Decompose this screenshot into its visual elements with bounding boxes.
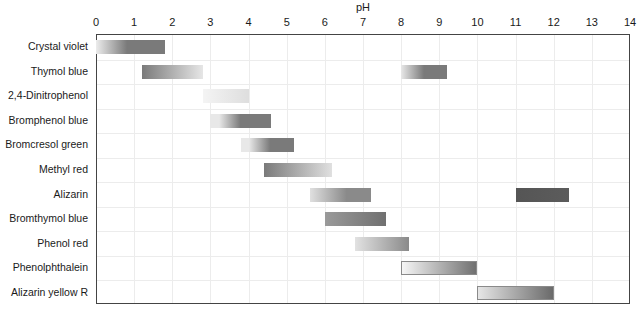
x-tick-label: 2 (169, 16, 175, 28)
indicator-label: Thymol blue (31, 65, 88, 77)
horizontal-gridline (97, 207, 629, 208)
ph-range-bar (264, 163, 333, 177)
ph-range-bar (241, 138, 294, 152)
x-tick-label: 12 (548, 16, 560, 28)
ph-range-bar (401, 261, 477, 275)
horizontal-gridline (97, 182, 629, 183)
horizontal-gridline (97, 256, 629, 257)
vertical-gridline (592, 35, 593, 303)
horizontal-gridline (97, 133, 629, 134)
ph-range-bar (210, 114, 271, 128)
indicator-label: Methyl red (39, 163, 88, 175)
horizontal-gridline (97, 158, 629, 159)
ph-range-bar (355, 237, 408, 251)
indicator-label: Phenol red (37, 237, 88, 249)
indicator-label: Bromcresol green (5, 138, 88, 150)
indicator-label: Alizarin yellow R (11, 286, 88, 298)
ph-range-bar (516, 188, 569, 202)
horizontal-gridline (97, 109, 629, 110)
x-tick-label: 5 (284, 16, 290, 28)
indicator-label: Bromphenol blue (9, 114, 88, 126)
indicator-label: Alizarin (54, 188, 88, 200)
vertical-gridline (210, 35, 211, 303)
x-tick-label: 9 (436, 16, 442, 28)
indicator-label: 2,4-Dinitrophenol (8, 89, 88, 101)
x-tick-label: 1 (131, 16, 137, 28)
ph-range-bar (203, 89, 249, 103)
ph-range-bar (310, 188, 371, 202)
x-tick-label: 0 (93, 16, 99, 28)
x-tick-label: 14 (624, 16, 636, 28)
vertical-gridline (249, 35, 250, 303)
ph-range-bar (325, 212, 386, 226)
x-tick-label: 10 (471, 16, 483, 28)
indicator-label: Crystal violet (28, 40, 88, 52)
ph-range-bar (401, 65, 447, 79)
vertical-gridline (554, 35, 555, 303)
x-tick-label: 11 (510, 16, 521, 28)
vertical-gridline (477, 35, 478, 303)
x-tick-label: 6 (322, 16, 328, 28)
horizontal-gridline (97, 280, 629, 281)
indicator-label: Phenolphthalein (13, 261, 88, 273)
x-tick-label: 4 (246, 16, 252, 28)
vertical-gridline (363, 35, 364, 303)
x-tick-label: 13 (586, 16, 598, 28)
ph-range-bar (96, 40, 165, 54)
vertical-gridline (516, 35, 517, 303)
horizontal-gridline (97, 84, 629, 85)
x-axis-title: pH (356, 1, 370, 13)
horizontal-gridline (97, 60, 629, 61)
x-tick-label: 8 (398, 16, 404, 28)
x-tick-label: 3 (207, 16, 213, 28)
plot-area (96, 34, 630, 304)
ph-range-bar (142, 65, 203, 79)
vertical-gridline (134, 35, 135, 303)
indicator-label: Bromthymol blue (9, 212, 88, 224)
ph-range-bar (477, 286, 553, 300)
x-tick-label: 7 (360, 16, 366, 28)
indicator-ph-range-chart: pH 01234567891011121314 Crystal violetTh… (0, 0, 641, 312)
horizontal-gridline (97, 231, 629, 232)
